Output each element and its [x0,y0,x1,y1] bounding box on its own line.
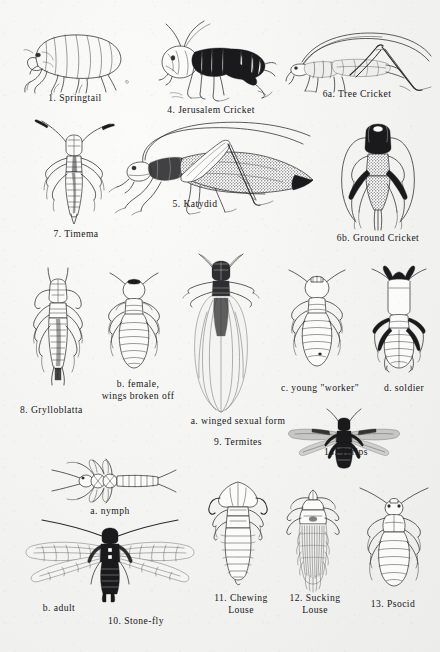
caption-chewing-louse-line1: 11. Chewing [214,592,268,603]
caption-stonefly-adult: b. adult [20,602,98,614]
caption-timema: 7. Timema [18,228,134,240]
figure-stonefly-adult [22,518,198,602]
caption-thrips: 14. Thrips [296,446,396,458]
figure-termite-female [98,272,170,376]
caption-sucking-louse-line2: Louse [302,604,328,615]
caption-termite-female-line1: b. female, [117,378,160,389]
caption-termite-worker: c. young "worker" [264,382,376,394]
figure-chewing-louse [206,480,270,590]
caption-termite-soldier: d. soldier [368,382,440,394]
caption-tree-cricket: 6a. Tree Cricket [282,88,432,100]
figure-thrips [287,408,403,470]
figure-termite-worker [283,268,351,372]
caption-jerusalem-cricket: 4. Jerusalem Cricket [138,104,284,116]
figure-stonefly-nymph [48,458,176,504]
figure-sucking-louse [282,488,344,592]
insect-plate: 1. Springtail [0,0,440,652]
caption-psocid: 13. Psocid [346,598,440,610]
caption-ground-cricket: 6b. Ground Cricket [316,232,440,244]
caption-springtail: 1. Springtail [16,92,134,104]
caption-termite-female: b. female, wings broken off [86,378,190,402]
figure-springtail [16,22,134,94]
figure-termite-soldier [366,266,432,372]
caption-katydid: 5. Katydid [140,198,250,210]
figure-grylloblatta [22,268,94,392]
figure-ground-cricket [330,118,426,230]
figure-termite-winged [183,252,259,414]
caption-stonefly-nymph: a. nymph [50,505,170,517]
caption-grylloblatta: 8. Grylloblatta [14,404,132,416]
caption-chewing-louse-line2: Louse [228,604,254,615]
caption-stonefly: 10. Stone-fly [66,615,206,627]
figure-psocid [358,486,430,594]
caption-sucking-louse-line1: 12. Sucking [290,592,341,603]
caption-termite-female-line2: wings broken off [102,390,175,401]
figure-tree-cricket [282,32,432,94]
figure-jerusalem-cricket [146,18,276,102]
